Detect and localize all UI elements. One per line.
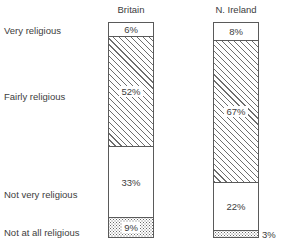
column-header-nireland: N. Ireland <box>200 4 272 15</box>
bar-segment-nireland-not-at-all-religious: 3% <box>214 230 258 237</box>
bar-segment-nireland-fairly-religious: 67% <box>214 40 258 182</box>
bar-value-britain-not-very-religious: 33% <box>119 177 142 188</box>
bar-value-britain-fairly-religious: 52% <box>119 86 142 97</box>
bar-value-nireland-very-religious: 8% <box>227 26 245 37</box>
bar-value-britain-not-at-all-religious: 9% <box>122 222 140 233</box>
category-label-fairly-religious: Fairly religious <box>4 91 104 102</box>
category-label-not-at-all-religious: Not at all religious <box>4 227 104 238</box>
bar-value-nireland-not-very-religious: 22% <box>224 201 247 212</box>
stacked-bar-nireland: 8% 67% 22% 3% <box>213 22 259 238</box>
bar-segment-britain-fairly-religious: 52% <box>109 36 153 147</box>
bar-segment-britain-not-at-all-religious: 9% <box>109 217 153 237</box>
category-label-not-very-religious: Not very religious <box>4 189 104 200</box>
bar-segment-britain-not-very-religious: 33% <box>109 146 153 217</box>
category-label-very-religious: Very religious <box>4 25 104 36</box>
stacked-bar-britain: 6% 52% 33% 9% <box>108 22 154 238</box>
bar-segment-britain-very-religious: 6% <box>109 23 153 36</box>
bar-value-nireland-fairly-religious: 67% <box>224 106 247 117</box>
bar-segment-nireland-very-religious: 8% <box>214 23 258 40</box>
bar-value-britain-very-religious: 6% <box>122 24 140 35</box>
bar-value-nireland-not-at-all-religious: 3% <box>262 228 276 239</box>
column-header-britain: Britain <box>98 4 164 15</box>
bar-segment-nireland-not-very-religious: 22% <box>214 182 258 229</box>
